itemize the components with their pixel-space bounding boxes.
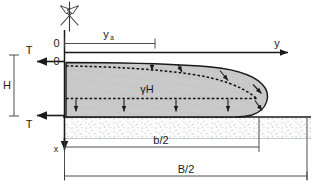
symmetry-axis-marker-icon <box>61 2 78 31</box>
origin-lower-label: 0 <box>53 55 59 67</box>
outer-half-width-label: B/2 <box>178 163 195 175</box>
x-axis-label: x <box>54 144 59 154</box>
shear-force-arrows <box>37 62 64 116</box>
foundation-soil-layer <box>63 117 311 139</box>
figure-container: 0 0 y x T T H γH y a b/2 B/2 <box>0 0 313 186</box>
shear-label-top: T <box>26 44 33 56</box>
cross-section-diagram: 0 0 y x T T H γH y a b/2 B/2 <box>0 0 313 186</box>
shear-label-bottom: T <box>26 118 33 130</box>
body-stress-label: γH <box>140 83 154 95</box>
spread-distance-subscript: a <box>110 34 114 41</box>
y-axis-label: y <box>274 37 280 49</box>
inner-half-width-label: b/2 <box>153 134 168 146</box>
origin-upper-label: 0 <box>53 37 59 49</box>
thickness-label: H <box>3 79 11 91</box>
spread-distance-label: y <box>103 28 109 40</box>
